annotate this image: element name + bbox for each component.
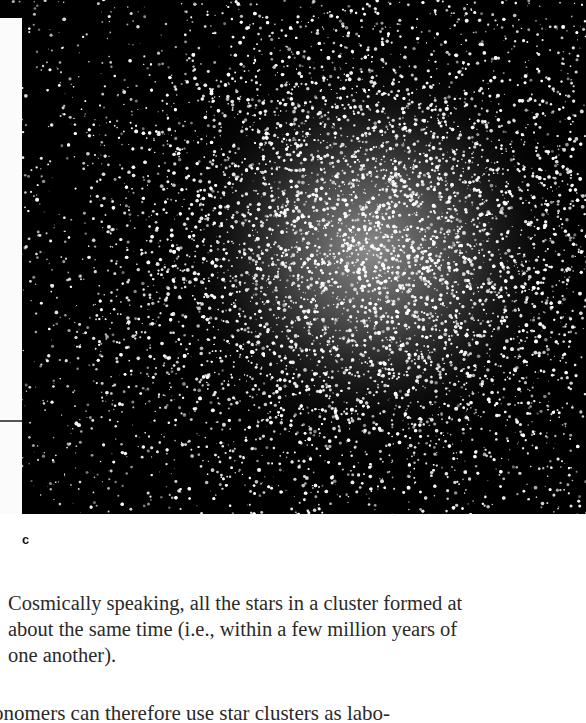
star-cluster-photo <box>0 0 586 514</box>
body-text-line: ronomers can therefore use star clusters… <box>0 700 586 723</box>
figure-caption: Cosmically speaking, all the stars in a … <box>8 590 478 668</box>
margin-rule-line <box>0 420 22 422</box>
page-margin <box>0 18 22 514</box>
figure-panel-label: c <box>22 532 29 547</box>
star-field-image <box>0 0 586 514</box>
